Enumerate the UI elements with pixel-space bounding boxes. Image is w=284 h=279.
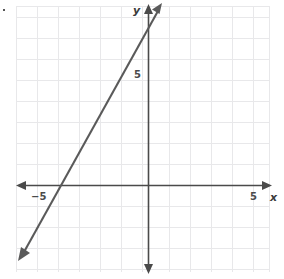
y-tick-label-5: 5 bbox=[134, 70, 141, 80]
x-tick-label-5: 5 bbox=[250, 192, 257, 202]
plotted-line bbox=[18, 3, 162, 261]
grid-lines bbox=[16, 6, 270, 272]
y-axis-up-arrow bbox=[144, 4, 153, 14]
line-upper-arrow bbox=[152, 3, 162, 14]
x-axis bbox=[16, 181, 272, 190]
x-axis-label: x bbox=[270, 192, 277, 203]
x-axis-left-arrow bbox=[16, 181, 26, 190]
coordinate-plane-svg bbox=[0, 0, 284, 279]
y-axis bbox=[144, 4, 153, 274]
line-lower-arrow bbox=[18, 247, 30, 261]
x-tick-label-neg5: −5 bbox=[31, 192, 46, 202]
graph-figure: y x 5 5 −5 bbox=[0, 0, 284, 279]
x-axis-right-arrow bbox=[262, 181, 272, 190]
y-axis-label: y bbox=[133, 5, 140, 16]
